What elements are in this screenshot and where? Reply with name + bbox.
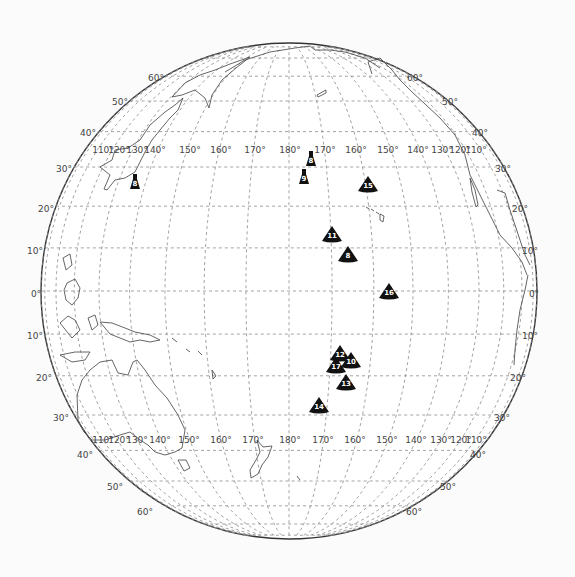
longitude-label: 150° [179, 145, 201, 155]
latitude-label: 30° [56, 164, 72, 174]
latitude-label: 30° [495, 164, 511, 174]
latitude-label: 30° [494, 413, 510, 423]
latitude-label: 50° [440, 482, 456, 492]
latitude-label: 60° [406, 507, 422, 517]
latitude-label: 50° [107, 482, 123, 492]
longitude-label: 140° [149, 435, 171, 445]
longitude-label: 110° [465, 145, 487, 155]
longitude-label: 140° [405, 435, 427, 445]
latitude-label: 0° [529, 289, 539, 299]
longitude-label: 140° [144, 145, 166, 155]
map-canvas[interactable]: 60°50°40°30°20°10°0°10°20°30°40°50°60°60… [0, 0, 575, 577]
latitude-label: 10° [522, 246, 538, 256]
latitude-label: 40° [80, 128, 96, 138]
longitude-label: 160° [210, 435, 232, 445]
marker-label: 8 [309, 157, 314, 165]
latitude-label: 20° [38, 204, 54, 214]
longitude-label: 140° [407, 145, 429, 155]
marker-label: 13 [341, 380, 351, 388]
longitude-label: 170° [242, 435, 264, 445]
longitude-label: 170° [312, 435, 334, 445]
latitude-label: 40° [472, 128, 488, 138]
marker-label: 17 [331, 363, 341, 371]
marker-label: 10 [346, 358, 356, 366]
longitude-label: 110° [465, 435, 487, 445]
longitude-label: 160° [345, 145, 367, 155]
longitude-label: 130° [126, 435, 148, 445]
marker-label: 16 [384, 289, 394, 297]
longitude-label: 150° [377, 145, 399, 155]
marker-label: 15 [363, 182, 373, 190]
latitude-label: 60° [407, 73, 423, 83]
latitude-label: 20° [512, 204, 528, 214]
latitude-label: 20° [510, 373, 526, 383]
marker-label: 11 [327, 232, 337, 240]
latitude-label: 50° [112, 97, 128, 107]
longitude-label: 170° [244, 145, 266, 155]
longitude-labels-top: 110°120°130°140°150°160°170°180°170°160°… [92, 145, 487, 155]
marker-label: 9 [302, 175, 307, 183]
longitude-label: 150° [376, 435, 398, 445]
longitude-label: 130° [430, 435, 452, 445]
latitude-label: 30° [53, 413, 69, 423]
pacific-orthographic-map: 60°50°40°30°20°10°0°10°20°30°40°50°60°60… [0, 0, 575, 577]
marker-label: 8 [133, 180, 138, 188]
longitude-label: 170° [314, 145, 336, 155]
longitude-label: 160° [210, 145, 232, 155]
latitude-label: 0° [31, 289, 41, 299]
marker-label: 14 [314, 403, 324, 411]
latitude-label: 10° [27, 331, 43, 341]
longitude-label: 180° [279, 145, 301, 155]
latitude-label: 10° [27, 246, 43, 256]
latitude-label: 20° [36, 373, 52, 383]
longitude-label: 160° [344, 435, 366, 445]
latitude-label: 40° [77, 450, 93, 460]
marker-label: 8 [346, 252, 351, 260]
longitude-label: 150° [178, 435, 200, 445]
latitude-label: 60° [148, 73, 164, 83]
latitude-label: 10° [522, 331, 538, 341]
latitude-label: 60° [137, 507, 153, 517]
latitude-label: 40° [470, 450, 486, 460]
longitude-label: 180° [279, 435, 301, 445]
latitude-label: 50° [442, 97, 458, 107]
